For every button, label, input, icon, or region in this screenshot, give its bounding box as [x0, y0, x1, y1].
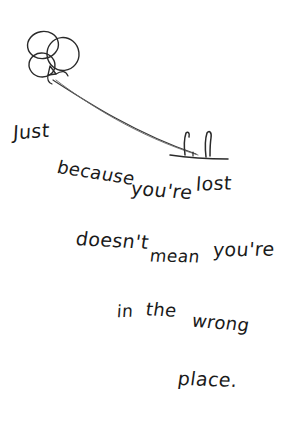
handwritten-quote-page: Just because you're lost doesn't mean yo…	[0, 0, 283, 440]
figure-stroke-right	[205, 132, 211, 157]
quote-word-in: in	[116, 303, 133, 321]
quote-word-the: the	[145, 300, 179, 319]
quote-word-mean: mean	[149, 248, 201, 266]
ground-line	[170, 155, 228, 159]
balloon-illustration	[0, 0, 283, 440]
balloon-circle-upper-left	[25, 29, 60, 61]
quote-word-just: Just	[13, 121, 51, 143]
quote-word-doesnt: doesn't	[75, 229, 151, 252]
balloon-string-stroke-a	[53, 80, 196, 154]
quote-word-wrong: wrong	[190, 312, 251, 335]
quote-word-lost: lost	[195, 173, 232, 193]
balloon-string-stroke-b	[56, 80, 198, 155]
quote-word-place: place.	[177, 369, 239, 390]
quote-word-youre-1: you're	[129, 179, 194, 202]
quote-word-youre-2: you're	[212, 239, 275, 259]
